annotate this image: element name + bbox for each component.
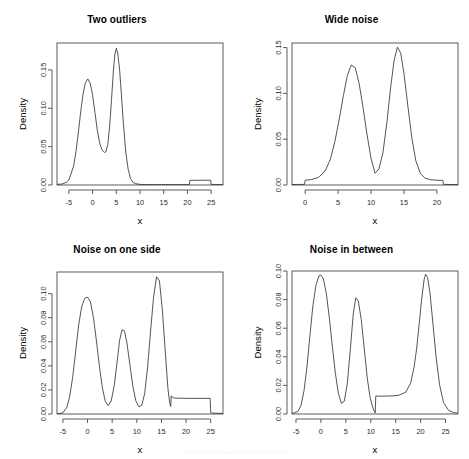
density-plot-figure: Two outliers -505101520250.000.050.100.1… [0, 0, 469, 459]
y-tick-label: 0.02 [39, 383, 48, 397]
x-tick-label: 25 [207, 198, 215, 207]
x-tick-label: 0 [91, 198, 95, 207]
panel-wide-noise: Wide noise 051015200.000.050.100.15xDens… [234, 0, 469, 230]
y-axis-title: Density [17, 98, 28, 130]
x-tick-label: -5 [66, 198, 73, 207]
x-tick-label: 5 [344, 427, 348, 436]
panel-noise-in-between: Noise in between -505101520250.000.020.0… [234, 230, 469, 459]
x-tick-label: 15 [160, 198, 168, 207]
x-tick-label: -5 [293, 427, 300, 436]
x-tick-label: 10 [367, 198, 375, 207]
x-tick-label: 0 [85, 427, 89, 436]
density-curve [57, 48, 223, 184]
y-tick-label: 0.05 [39, 139, 48, 153]
figure-caption: Fig. 3 Kernel estimates with noise and o… [0, 445, 469, 459]
y-tick-label: 0.15 [274, 40, 283, 54]
x-axis-title: x [373, 215, 378, 226]
density-curve [57, 277, 223, 414]
x-tick-label: 20 [182, 427, 190, 436]
panel-noise-on-one-side: Noise on one side -505101520250.000.020.… [0, 230, 234, 459]
y-tick-label: 0.04 [39, 359, 48, 373]
plot-box [57, 43, 223, 185]
plot-box [292, 43, 458, 185]
y-axis-title: Density [252, 98, 263, 130]
y-tick-label: 0.10 [39, 286, 48, 300]
x-tick-label: -5 [60, 427, 67, 436]
panel-two-outliers: Two outliers -505101520250.000.050.100.1… [0, 0, 234, 230]
x-tick-label: 25 [441, 427, 449, 436]
x-tick-label: 5 [336, 198, 340, 207]
plot-canvas-wide-noise: 051015200.000.050.100.15xDensity [234, 0, 469, 230]
y-axis-title: Density [252, 326, 263, 358]
x-tick-label: 0 [319, 427, 323, 436]
x-tick-label: 5 [110, 427, 114, 436]
x-tick-label: 10 [133, 427, 141, 436]
plot-canvas-noise-on-one-side: -505101520250.000.020.040.060.080.10xDen… [0, 230, 234, 459]
y-tick-label: 0.06 [39, 335, 48, 349]
x-tick-label: 25 [207, 427, 215, 436]
density-curve [292, 274, 458, 413]
y-tick-label: 0.08 [274, 292, 283, 306]
y-tick-label: 0.10 [274, 264, 283, 278]
plot-canvas-noise-in-between: -505101520250.000.020.040.060.080.10xDen… [234, 230, 469, 459]
x-axis-title: x [138, 215, 143, 226]
x-tick-label: 0 [303, 198, 307, 207]
y-axis-title: Density [17, 327, 28, 359]
y-tick-label: 0.02 [274, 378, 283, 392]
x-tick-label: 10 [136, 198, 144, 207]
plot-box [292, 271, 458, 414]
y-tick-label: 0.00 [39, 178, 48, 192]
y-tick-label: 0.00 [39, 407, 48, 421]
y-tick-label: 0.00 [274, 178, 283, 192]
x-tick-label: 20 [416, 427, 424, 436]
x-tick-label: 5 [114, 198, 118, 207]
x-tick-label: 15 [157, 427, 165, 436]
y-tick-label: 0.00 [274, 407, 283, 421]
y-tick-label: 0.04 [274, 350, 283, 364]
x-tick-label: 15 [392, 427, 400, 436]
y-tick-label: 0.06 [274, 321, 283, 335]
y-tick-label: 0.10 [274, 86, 283, 100]
x-tick-label: 20 [433, 198, 441, 207]
plot-canvas-two-outliers: -505101520250.000.050.100.15xDensity [0, 0, 234, 230]
x-tick-label: 10 [367, 427, 375, 436]
plot-box [57, 272, 223, 414]
density-curve [292, 47, 457, 184]
x-tick-label: 15 [400, 198, 408, 207]
y-tick-label: 0.15 [39, 63, 48, 77]
x-tick-label: 20 [183, 198, 191, 207]
y-tick-label: 0.05 [274, 132, 283, 146]
y-tick-label: 0.08 [39, 311, 48, 325]
y-tick-label: 0.10 [39, 101, 48, 115]
